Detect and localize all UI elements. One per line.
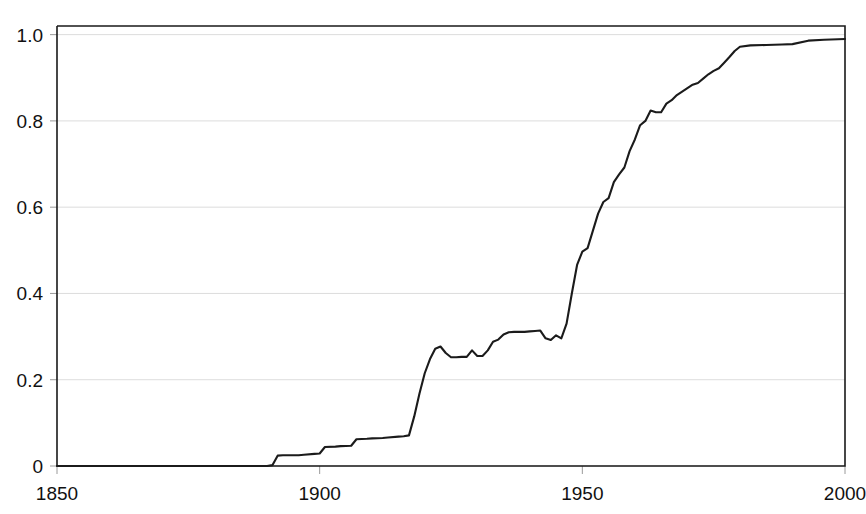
y-tick-label-4: 0.8	[17, 111, 43, 132]
x-tick-label-1: 1900	[299, 483, 341, 504]
chart-background	[0, 0, 866, 514]
line-chart: 00.20.40.60.81.0 1850190019502000	[0, 0, 866, 514]
y-tick-label-5: 1.0	[17, 25, 43, 46]
x-tick-label-2: 1950	[561, 483, 603, 504]
y-tick-label-2: 0.4	[17, 283, 44, 304]
y-tick-label-3: 0.6	[17, 197, 43, 218]
y-tick-label-0: 0	[32, 456, 43, 477]
x-tick-label-3: 2000	[824, 483, 866, 504]
y-tick-label-1: 0.2	[17, 370, 43, 391]
x-tick-label-0: 1850	[36, 483, 78, 504]
chart-figure: 00.20.40.60.81.0 1850190019502000	[0, 0, 866, 514]
